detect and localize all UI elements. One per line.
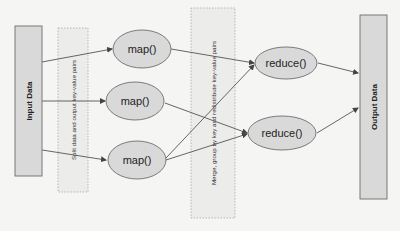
map-node-3-label: map(): [123, 154, 152, 166]
map-node-3: map(): [108, 141, 166, 179]
output-data-label: Output Data: [370, 84, 379, 130]
split-phase-label: Split data and output key-value pairs: [70, 60, 77, 160]
reduce-node-1: reduce(): [255, 47, 317, 79]
input-data-label: Input Data: [25, 81, 34, 121]
merge-phase-label: Merge, group by key and redistribute key…: [210, 41, 217, 185]
edge-reduce2-output: [317, 108, 358, 133]
edge-reduce1-output: [318, 63, 358, 73]
input-data-box: Input Data: [15, 26, 42, 176]
output-data-box: Output Data: [360, 15, 387, 199]
map-node-1: map(): [113, 30, 171, 68]
reduce-node-2: reduce(): [248, 116, 316, 150]
split-phase-box: Split data and output key-value pairs: [58, 28, 88, 192]
mapreduce-diagram: Split data and output key-value pairs Me…: [0, 0, 400, 231]
map-node-1-label: map(): [128, 43, 157, 55]
map-node-2: map(): [106, 82, 164, 120]
merge-phase-box: Merge, group by key and redistribute key…: [191, 8, 235, 218]
map-node-2-label: map(): [121, 95, 150, 107]
reduce-node-2-label: reduce(): [262, 127, 303, 139]
reduce-node-1-label: reduce(): [266, 57, 307, 69]
